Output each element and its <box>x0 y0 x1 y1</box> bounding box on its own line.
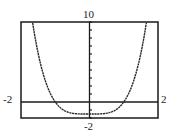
y-max-label: 10 <box>80 9 97 20</box>
graph-plot <box>0 0 172 134</box>
x-min-label: -2 <box>3 94 12 105</box>
y-min-label: -2 <box>80 121 97 132</box>
x-max-label: 2 <box>161 94 167 105</box>
